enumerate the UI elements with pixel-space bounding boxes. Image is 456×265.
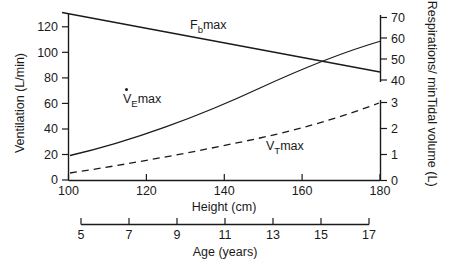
left-ticklabel-100: 100 xyxy=(37,46,58,60)
respirations-axis: 70 60 50 40 Respirations/ min xyxy=(381,1,440,98)
respirations-ticklabel-60: 60 xyxy=(391,32,405,46)
respirations-ticklabel-40: 40 xyxy=(391,74,405,88)
height-axis: 100 120 140 160 180 Height (cm) xyxy=(58,174,390,214)
left-ticklabel-20: 20 xyxy=(44,148,58,162)
chart-svg: 0 20 40 60 80 100 120 Ventilation (L/min… xyxy=(0,0,456,265)
age-ticklabel-5: 5 xyxy=(78,228,85,242)
left-ticklabel-40: 40 xyxy=(44,122,58,136)
left-axis: 0 20 40 60 80 100 120 Ventilation (L/min… xyxy=(13,14,69,187)
height-ticklabel-140: 140 xyxy=(214,184,235,198)
age-ticklabel-13: 13 xyxy=(266,228,280,242)
height-ticklabel-120: 120 xyxy=(136,184,157,198)
tidal-ticklabel-3: 3 xyxy=(391,96,398,110)
series-label-ve-max-group: VEmax xyxy=(123,88,162,109)
tidal-ticklabel-2: 2 xyxy=(391,122,398,136)
age-ticklabel-7: 7 xyxy=(126,228,133,242)
series-label-vt-max: VTmax xyxy=(266,139,305,156)
height-ticklabel-180: 180 xyxy=(370,184,391,198)
age-ticklabel-15: 15 xyxy=(314,228,328,242)
ve-max-overdot-icon xyxy=(125,88,128,91)
curve-vt-max xyxy=(70,103,379,173)
respirations-axis-title: Respirations/ min xyxy=(425,1,439,98)
age-ticklabel-17: 17 xyxy=(362,228,376,242)
tidal-volume-axis: 3 2 1 0 Tidal volume (L) xyxy=(381,96,440,188)
left-ticklabel-80: 80 xyxy=(44,71,58,85)
respiratory-growth-chart: 0 20 40 60 80 100 120 Ventilation (L/min… xyxy=(0,0,456,265)
series-label-ve-max: VEmax xyxy=(123,92,162,109)
left-axis-title: Ventilation (L/min) xyxy=(13,53,27,153)
left-ticklabel-120: 120 xyxy=(37,20,58,34)
tidal-volume-axis-title: Tidal volume (L) xyxy=(425,97,439,186)
series-label-ve-tail: max xyxy=(138,92,162,106)
age-axis-title: Age (years) xyxy=(193,245,258,259)
series-label-fb-max: Fbmax xyxy=(190,18,227,35)
respirations-ticklabel-70: 70 xyxy=(391,11,405,25)
age-ticklabel-11: 11 xyxy=(219,228,232,242)
curve-ve-max xyxy=(70,41,381,156)
respirations-ticklabel-50: 50 xyxy=(391,53,405,67)
tidal-ticklabel-1: 1 xyxy=(391,148,398,162)
age-axis: 5 7 9 11 13 15 17 Age (years) xyxy=(78,218,376,259)
tidal-ticklabel-0: 0 xyxy=(391,174,398,188)
series-label-fb-tail: max xyxy=(203,18,227,32)
left-ticklabel-0: 0 xyxy=(51,173,58,187)
age-ticklabel-9: 9 xyxy=(174,228,181,242)
left-ticklabel-60: 60 xyxy=(44,97,58,111)
height-ticklabel-160: 160 xyxy=(292,184,313,198)
height-axis-title: Height (cm) xyxy=(192,200,257,214)
height-ticklabel-100: 100 xyxy=(58,184,79,198)
series-label-vt-tail: max xyxy=(280,139,304,153)
